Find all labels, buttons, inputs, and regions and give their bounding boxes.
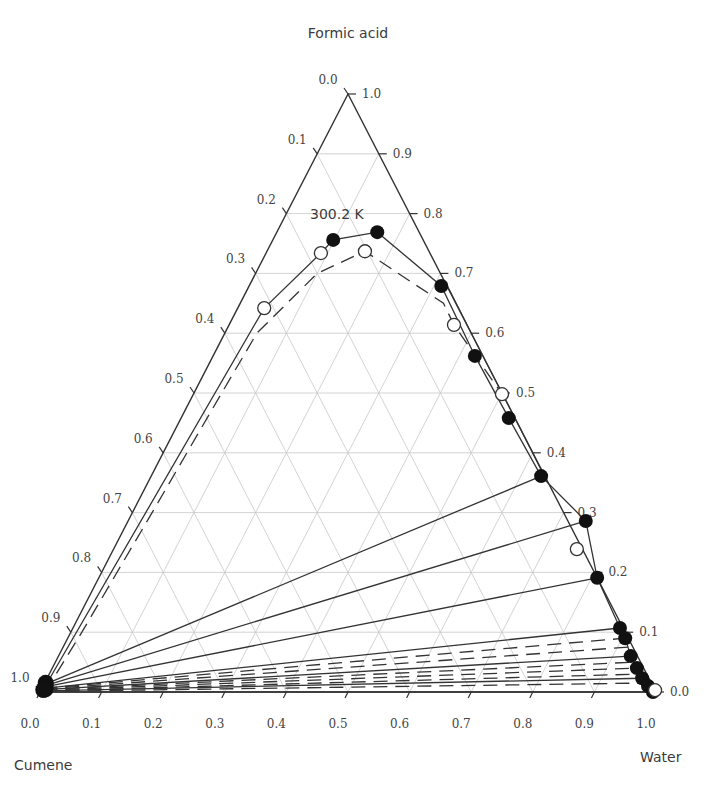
bottom-tick-label: 0.7 — [452, 717, 471, 731]
left-tick-label: 0.8 — [72, 551, 91, 565]
calculated-binodal-line — [45, 251, 502, 692]
bottom-tick-label: 1.0 — [636, 717, 655, 731]
open-marker — [314, 247, 327, 260]
tick-mark — [99, 692, 102, 698]
bottom-tick-label: 0.6 — [390, 717, 409, 731]
tick-mark — [313, 148, 317, 154]
right-tick-label: 0.8 — [424, 207, 443, 221]
tick-mark — [190, 387, 194, 393]
grid-line — [348, 393, 502, 692]
temperature-label: 300.2 K — [310, 206, 365, 222]
filled-marker — [590, 571, 604, 585]
right-tick-label: 0.0 — [670, 685, 689, 699]
tick-mark — [591, 692, 594, 698]
tick-mark — [283, 692, 286, 698]
tick-mark — [344, 88, 348, 94]
right-tick-label: 1.0 — [362, 87, 381, 101]
right-tick-label: 0.6 — [485, 326, 504, 340]
open-marker — [496, 388, 509, 401]
grid-line — [256, 273, 472, 692]
open-marker — [258, 302, 271, 315]
bottom-tick-label: 0.4 — [267, 717, 286, 731]
vertex-label-left: Cumene — [14, 757, 72, 773]
open-marker — [447, 318, 460, 331]
filled-marker — [434, 279, 448, 293]
grid-line — [225, 273, 441, 692]
bottom-tick-label: 0.5 — [328, 717, 347, 731]
tick-mark — [128, 507, 132, 513]
left-tick-label: 0.1 — [288, 133, 307, 147]
filled-marker — [534, 469, 548, 483]
filled-marker — [579, 514, 593, 528]
tick-mark — [67, 626, 71, 632]
open-marker — [649, 684, 662, 697]
tie-line-experimental — [44, 521, 586, 686]
bottom-tick-label: 0.0 — [20, 717, 39, 731]
left-tick-label: 0.9 — [41, 611, 60, 625]
right-tick-label: 0.1 — [639, 625, 658, 639]
tie-line-experimental — [44, 476, 541, 685]
filled-marker — [502, 411, 516, 425]
bottom-tick-label: 0.1 — [82, 717, 101, 731]
left-tick-label: 0.4 — [195, 312, 214, 326]
left-tick-label: 0.5 — [164, 372, 183, 386]
right-tick-label: 0.4 — [547, 446, 566, 460]
chart-grid — [71, 154, 625, 692]
left-tick-label: 0.2 — [257, 193, 276, 207]
grid-line — [471, 513, 563, 692]
tick-mark — [345, 692, 348, 698]
vertex-label-top: Formic acid — [308, 25, 388, 41]
filled-marker — [326, 233, 340, 247]
tick-mark — [221, 327, 225, 333]
left-tick-label: 0.6 — [134, 432, 153, 446]
filled-marker — [370, 225, 384, 239]
right-tick-label: 0.7 — [454, 266, 473, 280]
data-markers — [35, 225, 661, 699]
filled-marker — [624, 649, 638, 663]
right-tick-label: 0.9 — [393, 147, 412, 161]
tick-mark — [222, 692, 225, 698]
binodal-curves — [42, 232, 653, 692]
tick-mark — [252, 267, 256, 273]
right-tick-label: 0.5 — [516, 386, 535, 400]
experimental-binodal-line — [42, 232, 653, 692]
tick-mark — [159, 447, 163, 453]
open-marker — [570, 543, 583, 556]
left-tick-label: 0.3 — [226, 252, 245, 266]
ternary-chart: 0.00.10.20.30.40.50.60.70.80.91.00.00.10… — [0, 0, 708, 789]
right-tick-label: 0.2 — [608, 565, 627, 579]
left-tick-label: 0.7 — [103, 492, 122, 506]
open-marker — [358, 245, 371, 258]
grid-line — [317, 154, 594, 692]
grid-line — [194, 393, 348, 692]
filled-marker — [35, 682, 51, 698]
tick-mark — [160, 692, 163, 698]
tick-mark — [530, 692, 533, 698]
tick-mark — [407, 692, 410, 698]
vertex-label-right: Water — [640, 749, 682, 765]
left-tick-label: 0.0 — [318, 73, 337, 87]
tick-mark — [468, 692, 471, 698]
filled-marker — [468, 349, 482, 363]
grid-line — [132, 513, 224, 692]
tick-mark — [282, 208, 286, 214]
bottom-tick-label: 0.3 — [205, 717, 224, 731]
bottom-tick-label: 0.8 — [513, 717, 532, 731]
left-tick-label: 1.0 — [10, 671, 29, 685]
bottom-tick-label: 0.2 — [144, 717, 163, 731]
tick-mark — [98, 566, 102, 572]
filled-marker — [618, 631, 632, 645]
binodal-parallel-line — [447, 286, 544, 476]
bottom-tick-label: 0.9 — [575, 717, 594, 731]
